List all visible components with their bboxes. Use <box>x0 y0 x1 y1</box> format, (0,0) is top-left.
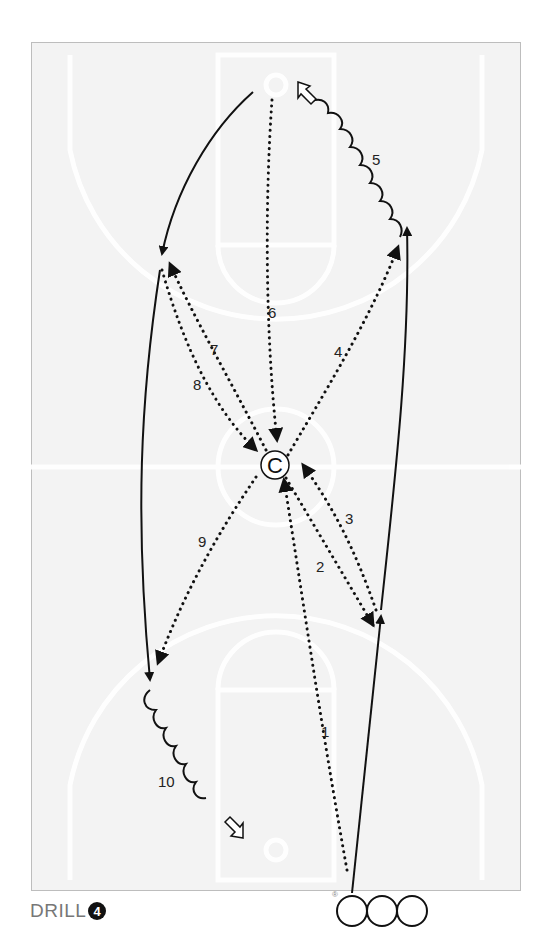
dribble-5 <box>312 100 402 237</box>
label-10: 10 <box>158 773 175 790</box>
label-1: 1 <box>321 723 329 740</box>
label-2: 2 <box>316 558 324 575</box>
player-1 <box>337 896 367 926</box>
cut-baseline-to-right-lower <box>352 616 381 893</box>
drill-title-text: DRILL <box>30 900 86 922</box>
label-8: 8 <box>193 376 201 393</box>
pass-3 <box>303 465 376 610</box>
coach-marker: C <box>261 451 289 479</box>
cut-paths <box>141 92 407 893</box>
shot-arrow-icon-bottom <box>225 817 243 838</box>
dribble-10 <box>144 690 206 798</box>
drill-number-badge: 4 <box>88 902 106 920</box>
coach-label: C <box>267 453 283 478</box>
label-5: 5 <box>372 151 380 168</box>
label-9: 9 <box>198 533 206 550</box>
cut-top-to-left <box>162 92 253 254</box>
drill-title: DRILL 4 <box>30 900 106 922</box>
player-2 <box>367 896 397 926</box>
drill-diagram: C ® 1 2 3 4 5 6 7 8 9 10 <box>0 0 554 947</box>
pass-1 <box>284 480 347 870</box>
pass-2 <box>286 478 373 625</box>
label-4: 4 <box>334 343 342 360</box>
player-3 <box>397 896 427 926</box>
registered-mark: ® <box>332 890 338 899</box>
pass-6 <box>267 100 277 440</box>
dribble-paths <box>144 100 401 799</box>
label-3: 3 <box>345 510 353 527</box>
label-7: 7 <box>210 341 218 358</box>
label-6: 6 <box>268 304 276 321</box>
player-line <box>337 896 427 926</box>
pass-paths <box>158 100 398 870</box>
cut-left-down <box>141 270 160 680</box>
pass-9 <box>158 477 256 663</box>
shot-arrow-icon-top <box>298 82 316 104</box>
pass-4 <box>288 247 398 455</box>
